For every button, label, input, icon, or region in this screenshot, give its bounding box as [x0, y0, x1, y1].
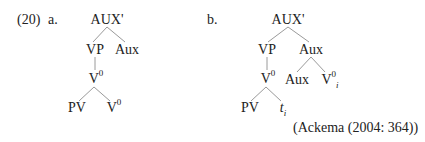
- tree-b-trace-node: ti: [280, 101, 286, 115]
- example-number: (20): [17, 13, 40, 27]
- tree-b-aux-leaf-node: Aux: [285, 73, 309, 87]
- tree-b-v0-superscript: 0: [271, 68, 276, 78]
- tree-b-v0-label: V: [261, 71, 271, 86]
- tree-a-v0-leaf-node: V0: [107, 101, 122, 115]
- tree-a-v0-node: V0: [89, 72, 104, 86]
- tree-a-v0-label: V: [89, 71, 99, 86]
- tree-a-v0-leaf-superscript: 0: [117, 97, 122, 107]
- tree-a-pv-node: PV: [68, 101, 86, 115]
- tree-a-v0-superscript: 0: [99, 68, 104, 78]
- subexample-a-label: a.: [48, 13, 58, 27]
- tree-a-aux-node: Aux: [115, 43, 139, 57]
- citation: (Ackema (2004: 364)): [293, 121, 418, 135]
- tree-b-v0-node: V0: [261, 72, 276, 86]
- subexample-b-label: b.: [207, 13, 218, 27]
- tree-a-vp-node: VP: [86, 43, 104, 57]
- tree-b-v0-leaf-index: i: [336, 80, 339, 90]
- tree-b-v0-leaf-node: V0i: [321, 73, 338, 87]
- tree-a-root-node: AUX': [91, 13, 124, 27]
- tree-b-trace-index: i: [284, 108, 287, 118]
- tree-b-aux-node: Aux: [299, 43, 323, 57]
- tree-b-v0-leaf-label: V: [321, 72, 331, 87]
- tree-a-v0-leaf-label: V: [107, 100, 117, 115]
- syntax-tree-figure: (20) a. b. AUX' VP Aux V0 PV V0 AUX' VP …: [0, 0, 425, 142]
- tree-b-vp-node: VP: [258, 43, 276, 57]
- tree-b-root-node: AUX': [272, 13, 305, 27]
- tree-b-pv-node: PV: [241, 101, 259, 115]
- tree-b-v0-leaf-superscript: 0: [332, 69, 337, 79]
